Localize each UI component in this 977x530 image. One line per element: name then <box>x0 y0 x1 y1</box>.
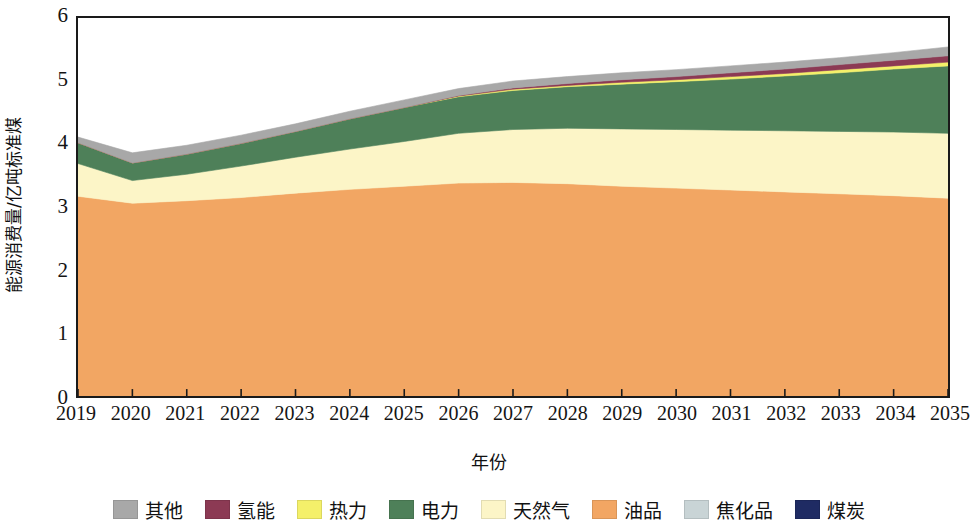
x-axis-tick-2020: 2020 <box>111 402 151 425</box>
legend-label: 氢能 <box>237 496 275 523</box>
legend-swatch-icon <box>297 500 322 519</box>
x-axis-tick-2019: 2019 <box>56 402 96 425</box>
x-axis-tick-2026: 2026 <box>438 402 478 425</box>
x-axis-tick-2028: 2028 <box>548 402 588 425</box>
y-axis-tick-6: 6 <box>0 3 68 28</box>
area-series-canvas <box>78 18 948 396</box>
legend-label: 其他 <box>145 496 183 523</box>
legend-swatch-icon <box>113 500 138 519</box>
legend-swatch-icon <box>592 500 617 519</box>
legend-swatch-icon <box>205 500 230 519</box>
legend-swatch-icon <box>389 500 414 519</box>
legend-swatch-icon <box>684 500 709 519</box>
y-axis-tick-3: 3 <box>0 194 68 219</box>
x-axis-tick-2027: 2027 <box>493 402 533 425</box>
legend-label: 煤炭 <box>827 496 865 523</box>
legend-item-3[interactable]: 电力 <box>389 496 459 523</box>
area-series-油品 <box>78 182 948 396</box>
legend-swatch-icon <box>795 500 820 519</box>
x-axis-tick-2035: 2035 <box>930 402 970 425</box>
legend-item-4[interactable]: 天然气 <box>481 496 570 523</box>
legend-label: 热力 <box>329 496 367 523</box>
x-axis-tick-2031: 2031 <box>712 402 752 425</box>
plot-area <box>76 16 950 398</box>
x-axis-tick-2030: 2030 <box>657 402 697 425</box>
x-axis-tick-2023: 2023 <box>275 402 315 425</box>
x-axis-title: 年份 <box>0 448 977 474</box>
y-axis-tick-2: 2 <box>0 258 68 283</box>
x-axis-tick-2032: 2032 <box>766 402 806 425</box>
legend-label: 天然气 <box>513 496 570 523</box>
legend-swatch-icon <box>481 500 506 519</box>
y-axis-tick-1: 1 <box>0 321 68 346</box>
legend-label: 油品 <box>624 496 662 523</box>
legend-label: 焦化品 <box>716 496 773 523</box>
legend-item-0[interactable]: 其他 <box>113 496 183 523</box>
x-axis-tick-2025: 2025 <box>384 402 424 425</box>
legend-label: 电力 <box>421 496 459 523</box>
legend-item-6[interactable]: 焦化品 <box>684 496 773 523</box>
y-axis-tick-5: 5 <box>0 67 68 92</box>
x-axis-tick-2034: 2034 <box>875 402 915 425</box>
legend-item-5[interactable]: 油品 <box>592 496 662 523</box>
x-axis-tick-2033: 2033 <box>821 402 861 425</box>
x-axis-tick-2021: 2021 <box>165 402 205 425</box>
legend-item-1[interactable]: 氢能 <box>205 496 275 523</box>
stacked-area-chart: 能源消费量/亿吨标准煤 6543210 20192020202120222023… <box>0 0 977 530</box>
y-axis-tick-4: 4 <box>0 130 68 155</box>
legend-item-2[interactable]: 热力 <box>297 496 367 523</box>
x-axis-tick-2022: 2022 <box>220 402 260 425</box>
legend-item-7[interactable]: 煤炭 <box>795 496 865 523</box>
chart-legend: 其他氢能热力电力天然气油品焦化品煤炭 <box>0 496 977 523</box>
x-axis-tick-2029: 2029 <box>602 402 642 425</box>
x-axis-tick-2024: 2024 <box>329 402 369 425</box>
